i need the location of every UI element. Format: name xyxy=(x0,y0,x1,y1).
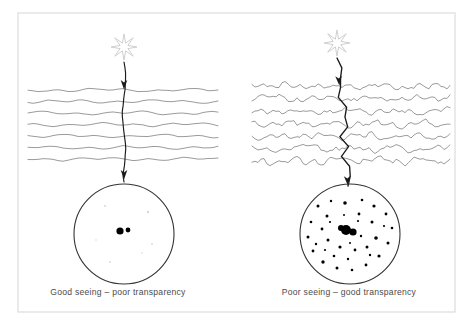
diagram-canvas: Good seeing – poor transparency Poor see… xyxy=(0,0,474,327)
panel-caption-left: Good seeing – poor transparency xyxy=(50,287,186,297)
figure-root: Good seeing – poor transparency Poor see… xyxy=(0,0,474,327)
panel-caption-right: Poor seeing – good transparency xyxy=(282,287,417,297)
figure-background xyxy=(0,0,474,327)
